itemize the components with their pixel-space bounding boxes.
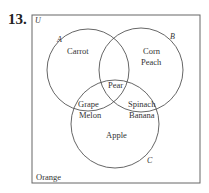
- region-c-apple: Apple: [106, 130, 127, 140]
- region-outside-orange: Orange: [36, 172, 61, 182]
- region-bc-spinach: Spinach: [128, 99, 156, 109]
- region-abc-pear: Pear: [108, 80, 123, 90]
- set-a-label: A: [56, 35, 62, 44]
- region-ac-melon: Melon: [79, 110, 102, 120]
- region-bc-banana: Banana: [129, 110, 155, 120]
- set-c-label: C: [147, 156, 153, 165]
- region-b-corn: Corn: [143, 46, 161, 56]
- region-b-peach: Peach: [141, 57, 162, 67]
- region-a-carrot: Carrot: [67, 46, 89, 56]
- region-ac-grape: Grape: [78, 99, 99, 109]
- circle-c: [71, 80, 159, 168]
- set-b-label: B: [170, 32, 175, 41]
- venn-diagram: U A B C Carrot Corn Peach Pear Grape Mel…: [0, 0, 209, 193]
- universe-label: U: [35, 16, 42, 25]
